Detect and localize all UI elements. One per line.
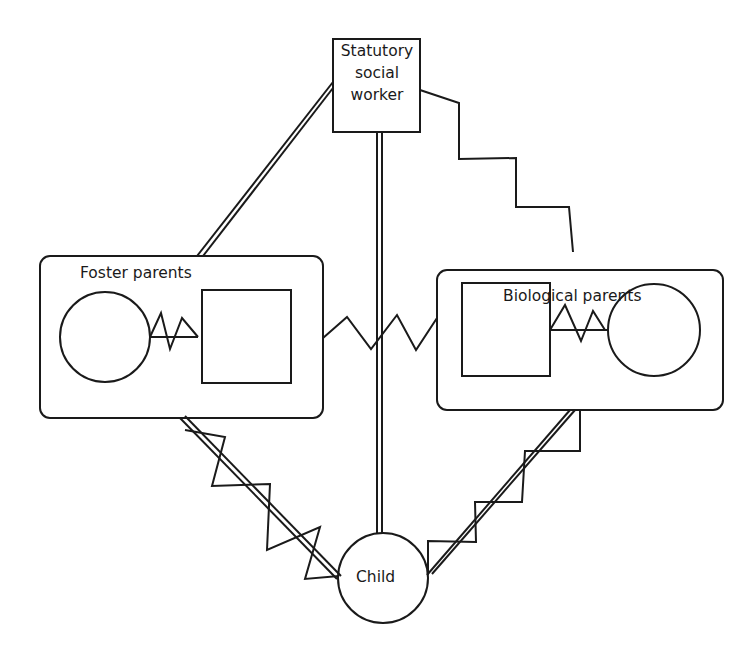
foster-father-square <box>202 290 291 383</box>
foster-parents-label: Foster parents <box>80 264 192 282</box>
foster-mother-circle <box>60 292 150 382</box>
social-worker-label: Statutory social worker <box>333 40 421 106</box>
edge-biological-couple <box>550 305 608 341</box>
edge-foster-couple <box>150 313 198 349</box>
edge-biological-child <box>427 410 580 575</box>
social-worker-label-line-3: worker <box>333 84 421 106</box>
child-label: Child <box>356 568 395 586</box>
edge-socialworker-biological <box>420 90 573 252</box>
social-worker-label-line-1: Statutory <box>333 40 421 62</box>
edge-foster-child <box>180 416 341 579</box>
social-worker-label-line-2: social <box>333 62 421 84</box>
biological-parents-label: Biological parents <box>503 287 642 305</box>
edge-socialworker-foster <box>197 82 333 256</box>
edge-foster-biological <box>323 315 437 350</box>
edge-socialworker-child <box>377 132 382 533</box>
relationship-diagram: Statutory social worker Foster parents B… <box>0 0 756 655</box>
